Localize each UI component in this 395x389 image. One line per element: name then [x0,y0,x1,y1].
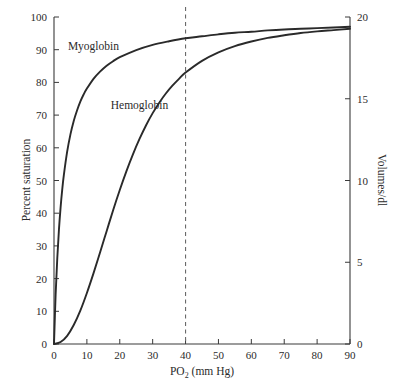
right-tick-label: 0 [357,338,363,350]
x-axis-title: PO2 (mm Hg) [170,365,234,380]
right-axis-ticks: 05101520 [345,11,369,350]
x-axis-title-rest: (mm Hg) [189,365,235,378]
hemoglobin-curve [54,29,350,344]
bottom-tick-label: 10 [81,349,93,361]
data-curves [54,27,350,344]
bottom-tick-label: 30 [147,349,159,361]
bottom-tick-label: 20 [114,349,126,361]
left-tick-label: 30 [36,240,48,252]
left-tick-label: 70 [36,109,48,121]
chart-page: 0102030405060708090100 05101520 01020304… [0,0,395,389]
y-axis-right-title: Volumes/dl [376,154,388,206]
bottom-tick-label: 90 [345,349,357,361]
bottom-tick-label: 40 [180,349,192,361]
hemoglobin-curve-label: Hemoglobin [111,99,169,112]
bottom-tick-label: 80 [312,349,324,361]
bottom-tick-label: 60 [246,349,258,361]
curve-annotations: MyoglobinHemoglobin [68,40,169,112]
y-axis-title: Percent saturation [20,138,32,221]
left-tick-label: 90 [36,44,48,56]
right-tick-label: 10 [357,175,369,187]
bottom-tick-label: 70 [279,349,291,361]
left-tick-label: 80 [36,76,48,88]
bottom-tick-label: 0 [51,349,57,361]
x-axis-title-base: PO [170,365,185,377]
left-tick-label: 10 [36,305,48,317]
right-tick-label: 20 [357,11,369,23]
oxygen-dissociation-chart: 0102030405060708090100 05101520 01020304… [0,0,395,389]
bottom-tick-label: 50 [213,349,225,361]
left-tick-label: 100 [31,11,48,23]
myoglobin-curve-label: Myoglobin [68,40,119,53]
left-tick-label: 40 [36,207,48,219]
right-tick-label: 15 [357,93,369,105]
svg-text:PO2 (mm Hg): PO2 (mm Hg) [170,365,234,380]
left-tick-label: 0 [42,338,48,350]
axes-frame [54,17,350,344]
left-tick-label: 60 [36,142,48,154]
bottom-axis-ticks: 0102030405060708090 [51,339,356,361]
left-tick-label: 20 [36,273,48,285]
left-tick-label: 50 [36,175,48,187]
right-tick-label: 5 [357,256,363,268]
myoglobin-curve [54,27,350,344]
